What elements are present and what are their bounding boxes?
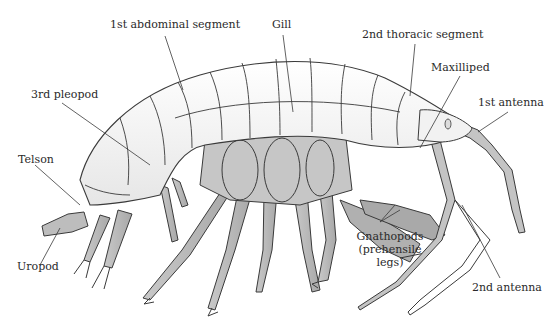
label-gnathopods-line3: legs) xyxy=(350,256,430,269)
label-gnathopods: Gnathopods (prehensile legs) xyxy=(350,230,430,269)
label-maxilliped: Maxilliped xyxy=(431,61,490,74)
label-1st-antenna: 1st antenna xyxy=(478,96,544,109)
label-uropod: Uropod xyxy=(17,260,59,273)
label-gnathopods-line1: Gnathopods xyxy=(350,230,430,243)
label-2nd-thoracic-segment: 2nd thoracic segment xyxy=(362,28,484,41)
label-gill: Gill xyxy=(272,18,291,31)
label-3rd-pleopod: 3rd pleopod xyxy=(31,88,98,101)
label-2nd-antenna: 2nd antenna xyxy=(472,281,542,294)
label-telson: Telson xyxy=(18,153,54,166)
label-gnathopods-line2: (prehensile xyxy=(350,243,430,256)
label-1st-abdominal-segment: 1st abdominal segment xyxy=(110,18,240,31)
eye xyxy=(445,119,451,129)
amphipod-diagram: 1st abdominal segment Gill 2nd thoracic … xyxy=(0,0,555,329)
amphipod-illustration xyxy=(0,0,555,329)
